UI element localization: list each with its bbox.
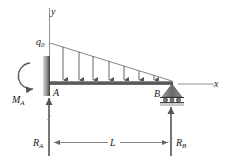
- fixed-wall-support: [43, 56, 50, 96]
- distributed-load-arrows: [63, 47, 154, 80]
- moment-arrow-icon: [18, 63, 33, 89]
- length-label: L: [109, 137, 116, 148]
- roller-icon: [163, 98, 167, 102]
- load-intensity-label: q0: [36, 36, 45, 49]
- point-a-label: A: [52, 87, 60, 98]
- moment-label: MA: [11, 94, 25, 107]
- roller-icon: [170, 98, 174, 102]
- roller-icon: [176, 98, 180, 102]
- point-b-label: B: [154, 88, 160, 99]
- x-axis-label: x: [213, 78, 219, 89]
- beam-diagram: y q0 A B x MA RA: [0, 0, 228, 161]
- y-axis-label: y: [50, 6, 56, 17]
- reaction-a-label: RA: [32, 137, 44, 150]
- support-triangle-icon: [162, 84, 182, 97]
- beam: [50, 81, 173, 85]
- reaction-b-label: RB: [175, 137, 187, 150]
- roller-support: [160, 84, 184, 106]
- ground-hatch: [160, 103, 184, 106]
